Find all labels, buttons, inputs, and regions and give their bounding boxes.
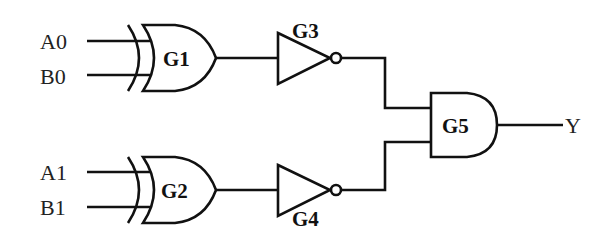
input-label-b1: B1	[40, 195, 66, 220]
output-label-y: Y	[565, 113, 581, 138]
gate-g2-xor: G2	[128, 157, 216, 223]
xor-extra-curve	[128, 157, 139, 223]
inversion-bubble	[331, 185, 341, 195]
input-label-b0: B0	[40, 64, 66, 89]
gate-g1-xor: G1	[128, 25, 216, 91]
input-label-a1: A1	[40, 160, 67, 185]
wire-g4-g5	[341, 142, 432, 190]
gate-label-g1: G1	[163, 47, 190, 71]
gate-g5-and: G5	[431, 93, 497, 157]
gate-label-g4: G4	[292, 207, 319, 231]
gate-label-g5: G5	[442, 114, 469, 138]
gate-label-g3: G3	[292, 19, 319, 43]
wire-g3-g5	[341, 58, 432, 108]
input-label-a0: A0	[40, 29, 67, 54]
xor-extra-curve	[128, 25, 139, 91]
gate-g4-not: G4	[278, 165, 341, 231]
gate-label-g2: G2	[161, 179, 188, 203]
inversion-bubble	[331, 53, 341, 63]
gate-g3-not: G3	[278, 19, 341, 84]
logic-circuit-diagram: A0 B0 A1 B1 G1 G2 G3 G4 G5 Y	[0, 0, 612, 242]
